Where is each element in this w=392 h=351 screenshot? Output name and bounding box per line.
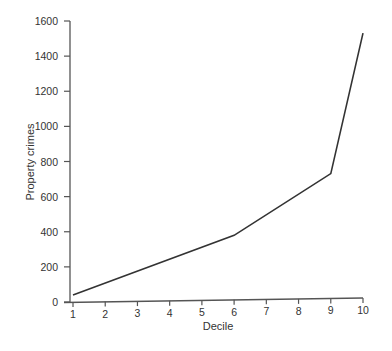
series-line [73, 33, 363, 295]
y-tick-label: 0 [52, 296, 58, 308]
y-tick-label: 1400 [35, 50, 59, 62]
x-tick-label: 6 [231, 306, 237, 318]
y-tick-label: 800 [40, 156, 58, 168]
line-chart: 02004006008001000120014001600 1234567891… [0, 0, 392, 351]
y-axis-label: Property crimes [24, 123, 36, 201]
data-series [73, 33, 363, 295]
x-tick-label: 1 [70, 308, 76, 320]
y-tick-label: 400 [40, 226, 58, 238]
x-tick-label: 8 [296, 305, 302, 317]
x-tick-label: 3 [135, 307, 141, 319]
x-tick-label: 4 [167, 307, 173, 319]
x-tick-label: 2 [102, 308, 108, 320]
y-tick-label: 1600 [35, 15, 59, 27]
y-tick-label: 1200 [35, 85, 59, 97]
x-tick-label: 10 [357, 304, 369, 316]
y-tick-label: 200 [40, 261, 58, 273]
x-axis: 12345678910 [64, 298, 369, 320]
x-axis-label: Decile [203, 320, 234, 332]
x-tick-label: 7 [263, 305, 269, 317]
y-axis: 02004006008001000120014001600 [35, 15, 70, 308]
y-tick-label: 600 [40, 191, 58, 203]
x-tick-label: 5 [199, 306, 205, 318]
y-tick-label: 1000 [35, 120, 59, 132]
x-tick-label: 9 [328, 304, 334, 316]
